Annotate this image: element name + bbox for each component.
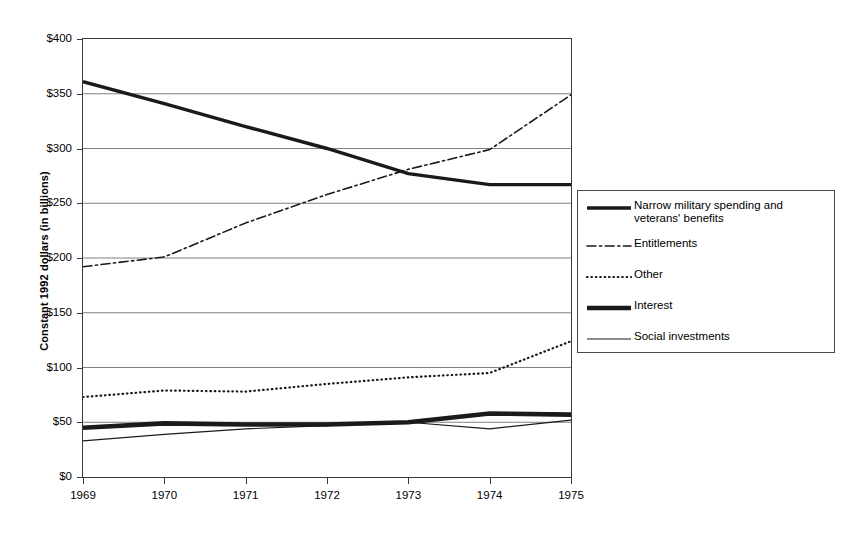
y-axis-tick-label: $250 bbox=[12, 197, 72, 209]
legend-item[interactable]: Interest bbox=[586, 299, 832, 314]
y-axis-tick-label: $300 bbox=[12, 143, 72, 155]
legend-item-label: Entitlements bbox=[632, 237, 697, 250]
legend-item-label: Narrow military spending and veterans' b… bbox=[632, 199, 832, 224]
chart-legend: Narrow military spending and veterans' b… bbox=[577, 190, 835, 353]
legend-item[interactable]: Narrow military spending and veterans' b… bbox=[586, 199, 832, 224]
x-axis-tick-mark bbox=[164, 478, 165, 484]
x-axis-tick-mark bbox=[490, 478, 491, 484]
legend-item[interactable]: Social investments bbox=[586, 330, 832, 345]
y-axis-tick-label: $50 bbox=[12, 416, 72, 428]
legend-item-label: Other bbox=[632, 268, 663, 281]
x-axis-tick-label: 1969 bbox=[58, 489, 108, 501]
legend-line-swatch-icon bbox=[586, 271, 632, 283]
y-axis-tick-label: $200 bbox=[12, 252, 72, 264]
legend-item[interactable]: Entitlements bbox=[586, 237, 832, 252]
x-axis-tick-mark bbox=[246, 478, 247, 484]
legend-item[interactable]: Other bbox=[586, 268, 832, 283]
legend-item-label: Social investments bbox=[632, 330, 730, 343]
legend-item-label: Interest bbox=[632, 299, 672, 312]
x-axis-tick-label: 1974 bbox=[465, 489, 515, 501]
plot-area bbox=[82, 38, 572, 478]
legend-line-swatch-icon bbox=[586, 240, 632, 252]
data-series-line bbox=[83, 341, 571, 397]
y-axis-tick-label: $350 bbox=[12, 88, 72, 100]
x-axis-tick-mark bbox=[327, 478, 328, 484]
legend-line-swatch-icon bbox=[586, 202, 632, 214]
y-axis-tick-label: $100 bbox=[12, 362, 72, 374]
y-axis-tick-label: $150 bbox=[12, 307, 72, 319]
data-series-line bbox=[83, 95, 571, 267]
legend-line-swatch-icon bbox=[586, 333, 632, 345]
chart-figure: Constant 1992 dollars (in billions) $0$5… bbox=[0, 0, 861, 559]
y-axis-tick-label: $400 bbox=[12, 33, 72, 45]
x-axis-tick-label: 1972 bbox=[302, 489, 352, 501]
series-canvas bbox=[83, 39, 571, 477]
legend-line-swatch-icon bbox=[586, 302, 632, 314]
x-axis-tick-label: 1975 bbox=[546, 489, 596, 501]
x-axis-tick-mark bbox=[571, 478, 572, 484]
y-axis-tick-label: $0 bbox=[12, 471, 72, 483]
x-axis-tick-mark bbox=[408, 478, 409, 484]
x-axis-tick-mark bbox=[83, 478, 84, 484]
x-axis-tick-label: 1971 bbox=[221, 489, 271, 501]
data-series-line bbox=[83, 82, 571, 185]
x-axis-tick-label: 1973 bbox=[383, 489, 433, 501]
x-axis-tick-label: 1970 bbox=[139, 489, 189, 501]
